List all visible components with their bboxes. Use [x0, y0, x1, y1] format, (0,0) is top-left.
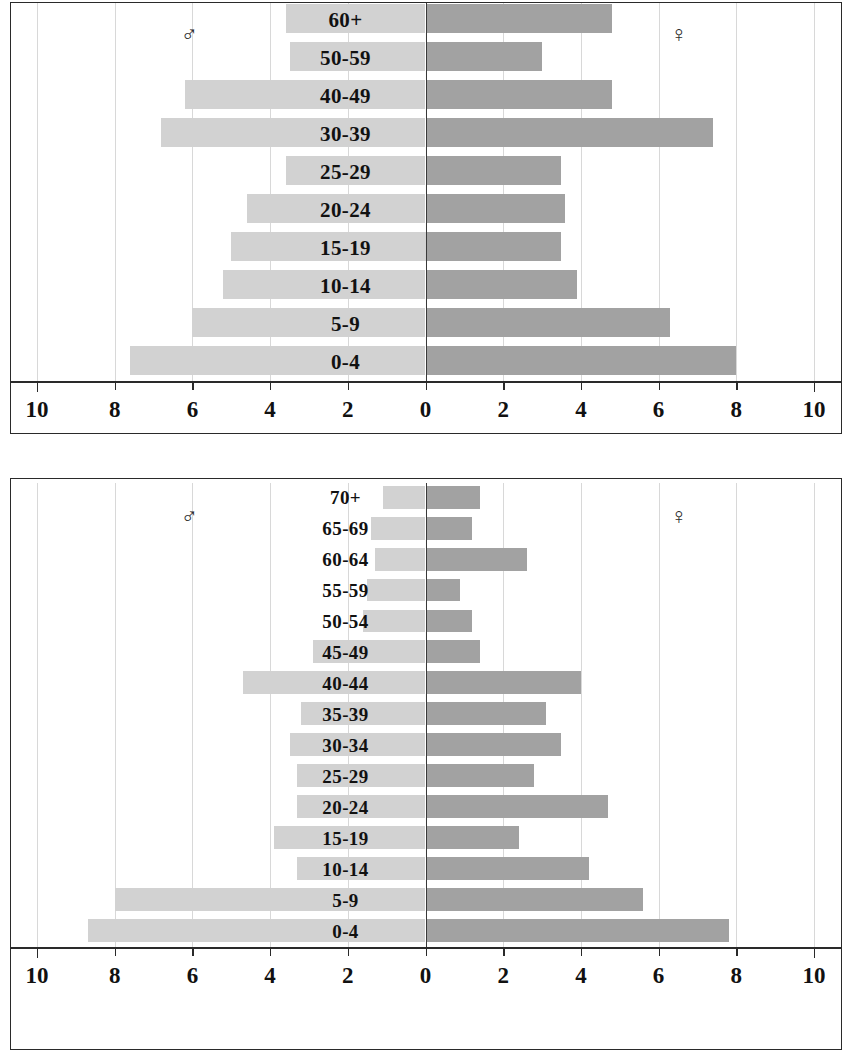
axis-tick	[348, 381, 349, 390]
bar-female	[426, 610, 473, 633]
axis-tick	[814, 947, 815, 958]
axis-tick	[192, 381, 193, 390]
axis-tick	[503, 947, 504, 956]
bar-male	[375, 548, 426, 571]
bar-female	[426, 826, 519, 849]
bar-female	[426, 232, 562, 260]
axis-tick-label: 4	[575, 963, 587, 989]
axis-tick	[659, 381, 660, 390]
plot-area-bottom: 70+65-6960-6455-5950-5445-4940-4435-3930…	[11, 483, 841, 947]
female-symbol-icon: ♀	[670, 23, 687, 46]
axis-tick	[37, 381, 38, 392]
axis-tick	[348, 947, 349, 956]
bar-male	[301, 702, 425, 725]
axis-tick	[814, 381, 815, 392]
axis-tick-label: 6	[187, 963, 199, 989]
axis-tick-label: 10	[803, 397, 826, 423]
axis-tick-label: 10	[26, 397, 49, 423]
bar-male	[290, 42, 426, 70]
axis-tick-label: 2	[342, 397, 354, 423]
zero-axis-line	[426, 483, 428, 947]
bar-male	[367, 579, 425, 602]
bar-male	[290, 733, 426, 756]
axis-tick	[426, 381, 427, 390]
zero-axis-line	[426, 3, 428, 381]
axis-tick	[115, 381, 116, 390]
bar-female	[426, 795, 609, 818]
male-symbol-icon: ♂	[181, 23, 198, 46]
bar-male	[231, 232, 425, 260]
bar-female	[426, 80, 612, 108]
axis-tick-label: 8	[109, 963, 121, 989]
bar-female	[426, 42, 543, 70]
axis-tick-label: 10	[26, 963, 49, 989]
axis-tick	[736, 381, 737, 390]
bar-male	[363, 610, 425, 633]
bar-male	[371, 517, 425, 540]
bar-male	[383, 486, 426, 509]
bar-male	[247, 194, 426, 222]
axis-tick-label: 4	[264, 397, 276, 423]
female-symbol-icon: ♀	[670, 505, 687, 528]
bar-female	[426, 888, 644, 911]
bar-male	[243, 671, 426, 694]
axis-tick-label: 4	[264, 963, 276, 989]
bar-male	[115, 888, 426, 911]
bar-female	[426, 548, 527, 571]
bar-male	[274, 826, 426, 849]
pyramid-chart-top: 60+50-5940-4930-3925-2920-2415-1910-145-…	[10, 2, 842, 434]
axis-tick-label: 4	[575, 397, 587, 423]
bar-female	[426, 156, 562, 184]
bar-female	[426, 579, 461, 602]
axis-tick	[581, 381, 582, 390]
bar-female	[426, 4, 612, 32]
axis-tick-label: 0	[420, 963, 432, 989]
axis-tick	[37, 947, 38, 958]
bar-female	[426, 346, 737, 374]
bar-male	[286, 4, 426, 32]
population-pyramid-figure: 60+50-5940-4930-3925-2920-2415-1910-145-…	[0, 0, 852, 1055]
axis-tick	[270, 947, 271, 956]
axis-tick-label: 6	[653, 963, 665, 989]
plot-area-top: 60+50-5940-4930-3925-2920-2415-1910-145-…	[11, 3, 841, 381]
bar-female	[426, 270, 578, 298]
bar-female	[426, 194, 566, 222]
axis-tick	[192, 947, 193, 956]
axis-tick	[736, 947, 737, 956]
bar-male	[313, 640, 426, 663]
bar-male	[185, 80, 426, 108]
axis-tick-label: 8	[731, 397, 743, 423]
axis-tick-label: 8	[109, 397, 121, 423]
axis-tick-label: 2	[342, 963, 354, 989]
axis-tick-label: 10	[803, 963, 826, 989]
axis-tick-label: 6	[653, 397, 665, 423]
axis-tick	[270, 381, 271, 390]
bar-female	[426, 764, 535, 787]
bar-male	[286, 156, 426, 184]
axis-tick	[115, 947, 116, 956]
bar-female	[426, 733, 562, 756]
bar-female	[426, 702, 546, 725]
bar-male	[192, 308, 425, 336]
axis-tick-label: 2	[497, 397, 509, 423]
axis-tick	[503, 381, 504, 390]
bar-male	[223, 270, 425, 298]
bar-female	[426, 671, 581, 694]
pyramid-chart-bottom: 70+65-6960-6455-5950-5445-4940-4435-3930…	[10, 478, 842, 1050]
axis-tick	[426, 947, 427, 956]
bar-male	[297, 795, 425, 818]
bar-female	[426, 640, 480, 663]
axis-tick-label: 0	[420, 397, 432, 423]
bar-male	[297, 764, 425, 787]
bar-male	[88, 919, 426, 942]
axis-tick	[581, 947, 582, 956]
bar-female	[426, 118, 713, 146]
male-symbol-icon: ♂	[181, 505, 198, 528]
axis-tick-label: 8	[731, 963, 743, 989]
bar-female	[426, 486, 480, 509]
bar-female	[426, 857, 589, 880]
bar-male	[161, 118, 425, 146]
bar-female	[426, 308, 671, 336]
axis-tick	[659, 947, 660, 956]
axis-tick-label: 6	[187, 397, 199, 423]
